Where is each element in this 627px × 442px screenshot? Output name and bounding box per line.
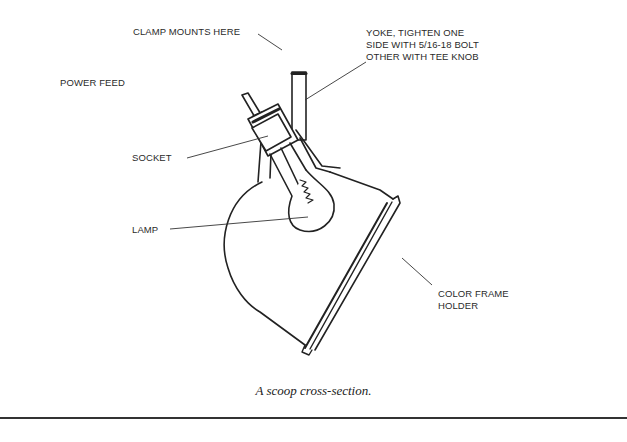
label-color-frame-holder: COLOR FRAME HOLDER <box>438 288 509 312</box>
label-color-frame-line2: HOLDER <box>438 300 509 312</box>
label-color-frame-line1: COLOR FRAME <box>438 288 509 300</box>
socket-leader-line <box>187 136 268 158</box>
label-clamp-mounts: CLAMP MOUNTS HERE <box>133 26 240 38</box>
label-lamp: LAMP <box>132 224 158 236</box>
label-yoke-line3: OTHER WITH TEE KNOB <box>366 51 479 63</box>
horizontal-rule-divider <box>0 417 627 419</box>
yoke-icon <box>292 72 306 140</box>
clamp-leader-line <box>258 34 282 50</box>
label-yoke-line1: YOKE, TIGHTEN ONE <box>366 27 479 39</box>
label-yoke: YOKE, TIGHTEN ONE SIDE WITH 5/16-18 BOLT… <box>366 27 479 63</box>
label-socket: SOCKET <box>132 152 172 164</box>
scoop-diagram: CLAMP MOUNTS HERE YOKE, TIGHTEN ONE SIDE… <box>0 0 627 442</box>
scoop-cross-section-drawing <box>0 0 627 442</box>
label-yoke-line2: SIDE WITH 5/16-18 BOLT <box>366 39 479 51</box>
label-power-feed: POWER FEED <box>60 77 125 89</box>
color-frame-leader-line <box>402 258 432 285</box>
lamp-leader-line <box>170 217 308 229</box>
figure-caption: A scoop cross-section. <box>0 383 627 399</box>
yoke-leader-line <box>305 62 366 100</box>
